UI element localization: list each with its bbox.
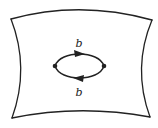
arrow-left-icon bbox=[73, 75, 84, 82]
vertex-right bbox=[102, 64, 107, 69]
surface-right-edge bbox=[141, 20, 152, 117]
surface-top-edge bbox=[11, 10, 152, 20]
surface-left-edge bbox=[11, 19, 21, 118]
label-bottom-edge: b bbox=[75, 86, 82, 99]
surface-diagram: b b bbox=[0, 0, 158, 128]
loop-bottom-edge bbox=[55, 66, 104, 78]
label-top-edge: b bbox=[75, 37, 82, 50]
vertex-left bbox=[53, 64, 58, 69]
surface-patch bbox=[11, 10, 152, 118]
arrow-right-icon bbox=[74, 50, 85, 57]
surface-bottom-edge bbox=[12, 111, 150, 118]
loop bbox=[55, 54, 104, 78]
loop-top-edge bbox=[55, 54, 104, 66]
